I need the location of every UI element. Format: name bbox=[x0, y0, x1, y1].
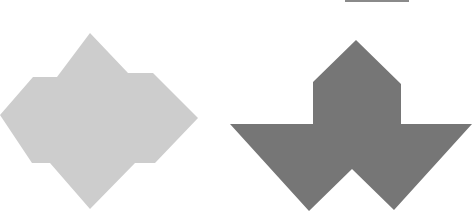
dark-tangram-shape bbox=[230, 40, 472, 211]
diagram-canvas bbox=[0, 0, 472, 215]
light-tangram-shape bbox=[0, 33, 198, 209]
